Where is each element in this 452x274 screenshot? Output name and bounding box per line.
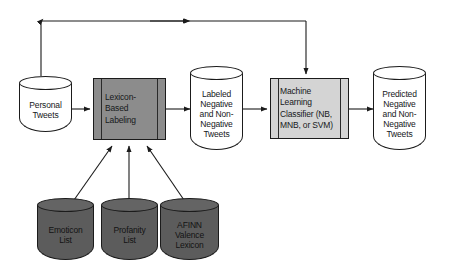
cylinder-top bbox=[190, 66, 243, 80]
label-line: Personal bbox=[29, 100, 61, 110]
node-labeled-tweets-label: Labeled Negative and Non- Negative Tweet… bbox=[190, 80, 243, 148]
cylinder-top bbox=[37, 198, 94, 212]
label-line: List bbox=[59, 235, 72, 245]
edge-feedback-loop bbox=[41, 21, 306, 76]
node-personal-tweets: Personal Tweets bbox=[19, 76, 72, 132]
label-line: Negative bbox=[200, 99, 232, 109]
label-line: Labeled bbox=[202, 89, 231, 99]
label-line: Lexicon bbox=[175, 240, 203, 250]
label-line: Tweets bbox=[203, 129, 229, 139]
cylinder-top bbox=[160, 198, 219, 212]
node-ml-classifier-label: Machine Learning Classifier (NB, MNB, or… bbox=[271, 79, 348, 138]
label-line: Emoticon bbox=[48, 225, 82, 235]
label-line: AFINN bbox=[177, 220, 202, 230]
node-labeled-tweets: Labeled Negative and Non- Negative Tweet… bbox=[190, 66, 243, 150]
node-lexicon-based-labeling: Lexicon- Based Labeling bbox=[93, 78, 166, 140]
node-ml-classifier: Machine Learning Classifier (NB, MNB, or… bbox=[270, 78, 349, 139]
label-line: Lexicon- bbox=[105, 92, 165, 103]
node-personal-tweets-label: Personal Tweets bbox=[19, 90, 72, 130]
edge-emoticon-to-lexicon bbox=[74, 146, 112, 200]
label-line: and Non- bbox=[200, 109, 234, 119]
cylinder-top bbox=[101, 198, 158, 212]
node-predicted-tweets-label: Predicted Negative and Non- Negative Twe… bbox=[373, 80, 426, 148]
label-line: Profanity bbox=[113, 225, 145, 235]
node-profanity-list-label: Profanity List bbox=[101, 212, 158, 258]
node-afinn-valence-lexicon-label: AFINN Valence Lexicon bbox=[160, 212, 219, 258]
label-line: Classifier (NB, bbox=[280, 109, 348, 120]
cylinder-top bbox=[373, 66, 426, 80]
label-line: Negative bbox=[383, 99, 415, 109]
label-line: and Non- bbox=[383, 109, 417, 119]
node-lexicon-based-labeling-label: Lexicon- Based Labeling bbox=[94, 79, 165, 139]
cylinder-top bbox=[19, 76, 72, 90]
label-line: Tweets bbox=[32, 110, 58, 120]
label-line: List bbox=[123, 235, 136, 245]
label-line: Negative bbox=[383, 119, 415, 129]
diagram-canvas: Personal Tweets Lexicon- Based Labeling … bbox=[0, 0, 452, 274]
node-profanity-list: Profanity List bbox=[101, 198, 158, 260]
label-line: Labeling bbox=[105, 115, 165, 126]
node-emoticon-list-label: Emoticon List bbox=[37, 212, 94, 258]
node-predicted-tweets: Predicted Negative and Non- Negative Twe… bbox=[373, 66, 426, 150]
label-line: Learning bbox=[280, 97, 348, 108]
label-line: Based bbox=[105, 103, 165, 114]
node-afinn-valence-lexicon: AFINN Valence Lexicon bbox=[160, 198, 219, 260]
edge-afinn-to-lexicon bbox=[147, 146, 184, 200]
label-line: Valence bbox=[175, 230, 204, 240]
label-line: Negative bbox=[200, 119, 232, 129]
label-line: Machine bbox=[280, 86, 348, 97]
node-emoticon-list: Emoticon List bbox=[37, 198, 94, 260]
label-line: Predicted bbox=[382, 89, 417, 99]
label-line: MNB, or SVM) bbox=[280, 120, 348, 131]
label-line: Tweets bbox=[386, 129, 412, 139]
